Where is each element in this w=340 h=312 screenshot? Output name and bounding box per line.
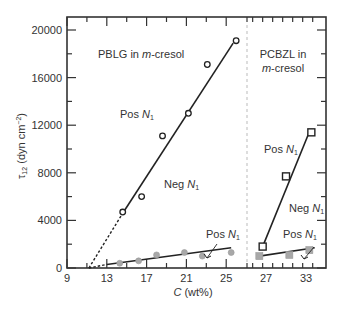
gray-circle-marker [117,260,123,266]
x-axis-title: C (wt%) [173,286,212,298]
open-square-marker [283,173,290,180]
extrapolation-line [89,213,123,268]
x-tick-label: 33 [300,272,312,284]
y-tick-label: 4000 [38,214,62,226]
x-tick-label: 13 [101,272,113,284]
series-annotation: Pos N1 [120,108,154,121]
y-tick-label: 20000 [31,24,62,36]
gray-circle-marker [181,250,187,256]
x-tick-label: 21 [180,272,192,284]
series-annotation: Neg N1 [164,178,199,191]
open-circle-marker [139,194,145,200]
open-circle-marker [160,133,166,139]
gray-circle-marker [136,258,142,264]
x-tick-label: 17 [140,272,152,284]
shear-stress-chart: 040008000120001600020000 9131721252733 P… [0,0,340,312]
y-tick-label: 0 [56,262,62,274]
gray-square-marker [256,253,263,260]
open-circle-marker [120,209,126,215]
y-tick-label: 16000 [31,72,62,84]
panel-title-pblg: PBLG in m-cresol [98,48,184,60]
gray-circle-marker [228,250,234,256]
y-tick-label: 8000 [38,167,62,179]
open-square-marker [308,129,315,136]
open-circle-marker [204,62,210,68]
open-circle-marker [186,111,192,117]
y-tick-label: 12000 [31,119,62,131]
gray-square-marker [286,251,293,258]
open-square-marker [259,243,266,250]
series-annotation: Neg N1 [289,202,324,215]
x-tick-label: 27 [260,272,272,284]
x-tick-label: 9 [64,272,70,284]
open-circle-marker [233,38,239,44]
panel-title-pcbzl-line1: PCBZL in [260,48,307,60]
x-tick-label: 25 [220,272,232,284]
series-annotation: Pos N1 [283,228,317,241]
gray-circle-marker [154,252,160,258]
series-annotation: Pos N1 [206,228,240,241]
y-axis-title: τ12 (dyn cm−2) [15,113,28,179]
series-annotation: Pos N1 [264,143,298,156]
panel-title-pcbzl-line2: m-cresol [262,62,304,74]
